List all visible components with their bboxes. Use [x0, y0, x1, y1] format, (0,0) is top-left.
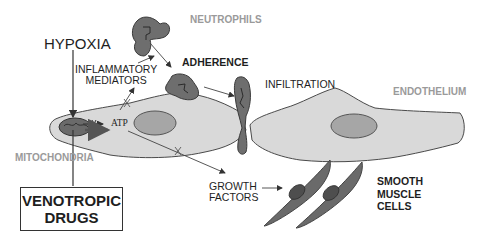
neutrophils-label: NEUTROPHILS — [190, 15, 262, 26]
venotropic-drugs-box: VENOTROPIC DRUGS — [20, 187, 123, 231]
nucleus-left — [134, 111, 176, 135]
hypoxia-label: HYPOXIA — [44, 36, 111, 52]
smooth-muscle-cells-line-2: MUSCLE — [377, 188, 423, 201]
mediators-to-neutrophil-arrow — [138, 56, 154, 63]
endothelium-label: ENDOTHELIUM — [393, 87, 466, 98]
infiltration-label: INFILTRATION — [265, 79, 335, 90]
venotropic-drugs-line-2: DRUGS — [44, 209, 98, 226]
mitochondrion — [59, 118, 91, 136]
growth-factors-label: GROWTH FACTORS — [209, 181, 258, 203]
growth-factors-line-2: FACTORS — [209, 192, 258, 203]
venotropic-drugs-line-1: VENOTROPIC — [22, 192, 121, 209]
neutrophil-top — [132, 17, 169, 56]
inflammatory-mediators-label: INFLAMMATORY MEDIATORS — [75, 64, 157, 86]
smooth-muscle-cells-line-1: SMOOTH — [377, 175, 423, 188]
adherence-to-infiltration-arrow — [204, 87, 234, 96]
diagram-canvas: HYPOXIA INFLAMMATORY MEDIATORS NEUTROPHI… — [0, 0, 486, 239]
smooth-muscle-cells-label: SMOOTH MUSCLE CELLS — [377, 175, 423, 213]
smooth-muscle-cells-line-3: CELLS — [377, 200, 423, 213]
mitochondria-label: MITOCHONDRIA — [15, 153, 94, 164]
nucleus-right — [331, 114, 377, 138]
inflammatory-mediators-line-2: MEDIATORS — [75, 75, 157, 86]
atp-label: ATP — [111, 119, 128, 129]
adherence-label: ADHERENCE — [182, 57, 249, 68]
